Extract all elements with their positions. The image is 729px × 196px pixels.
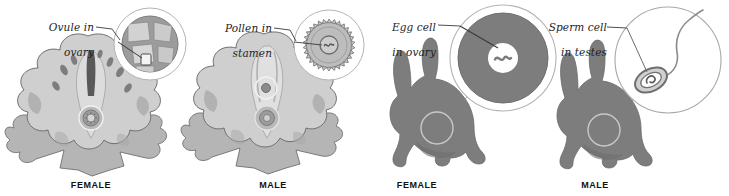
panel-egg-cell-in-ovary: Egg cell in ovary FEMALE	[364, 0, 546, 196]
caption-female-flower: FEMALE	[0, 180, 182, 190]
panel-sperm-cell-in-testes: Sperm cell in testes MALE	[547, 0, 729, 196]
caption-female-rabbit: FEMALE	[326, 180, 508, 190]
callout-line-1: Ovule in	[34, 21, 94, 34]
callout-dash	[96, 27, 112, 29]
callout-line-1: Pollen in	[210, 22, 272, 35]
callout-label-pollen: Pollen in stamen	[210, 9, 272, 72]
callout-line-2: ovary	[34, 46, 94, 59]
callout-line-1: Sperm cell	[535, 21, 607, 34]
callout-label-ovule: Ovule in ovary	[34, 8, 94, 71]
magnifier-ovary	[114, 8, 186, 80]
reproduction-diagram: Ovule in ovary FEMALE	[0, 0, 729, 196]
callout-label-sperm-cell: Sperm cell in testes	[535, 8, 607, 71]
callout-line-2: in ovary	[372, 46, 436, 59]
callout-line-2: in testes	[535, 46, 607, 59]
callout-label-egg-cell: Egg cell in ovary	[372, 8, 436, 71]
callout-dash	[607, 27, 627, 28]
ovule-highlight	[141, 54, 151, 65]
callout-dash	[274, 28, 290, 30]
callout-line-1: Egg cell	[372, 21, 436, 34]
magnifier-sperm-cell	[615, 7, 721, 113]
callout-dash	[438, 25, 460, 26]
caption-male-rabbit: MALE	[504, 180, 686, 190]
ovary-marker	[79, 106, 103, 130]
panel-ovule-in-ovary: Ovule in ovary FEMALE	[0, 0, 182, 196]
panel-pollen-in-stamen: Pollen in stamen MALE	[182, 0, 364, 196]
magnifier-pollen	[294, 10, 364, 80]
callout-line-2: stamen	[210, 47, 272, 60]
